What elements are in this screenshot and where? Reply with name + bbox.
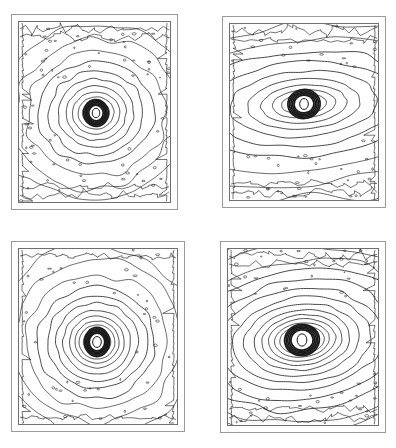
noise-speckle [80, 175, 82, 177]
noise-speckle [296, 28, 297, 30]
contour-panel-bottom-left [11, 241, 185, 432]
noise-speckle [145, 308, 147, 310]
noise-speckle [143, 314, 146, 315]
noise-speckle [315, 163, 317, 165]
noise-speckle [366, 260, 368, 262]
noise-speckle [98, 52, 99, 54]
contour-group [11, 243, 185, 432]
noise-speckle [86, 281, 89, 283]
noise-speckle [34, 342, 37, 343]
noise-speckle [340, 169, 342, 170]
noise-speckle [347, 180, 349, 181]
noise-speckle [314, 264, 316, 266]
noise-speckle [153, 316, 156, 318]
noise-speckle [297, 188, 301, 190]
noise-speckle [48, 40, 51, 42]
noise-speckle [277, 164, 279, 166]
core-center-hole [92, 108, 100, 118]
noise-speckle [365, 415, 369, 418]
edge-spike-contour [156, 23, 167, 201]
noise-speckle [297, 250, 301, 251]
noise-speckle [355, 195, 357, 197]
noise-speckle [121, 33, 124, 35]
noise-speckle [124, 269, 128, 271]
noise-speckle [308, 171, 309, 174]
noise-speckle [319, 159, 321, 160]
edge-spike-contour [233, 25, 243, 199]
noise-speckle [143, 408, 146, 409]
noise-speckle [246, 196, 249, 198]
noise-speckle [146, 300, 147, 302]
edge-spike-contour [163, 250, 174, 423]
noise-speckle [76, 381, 80, 383]
noise-speckle [76, 36, 79, 37]
noise-speckle [168, 356, 170, 357]
noise-speckle [63, 76, 67, 79]
noise-speckle [120, 378, 121, 380]
contour-group [220, 241, 386, 433]
contour-level [222, 16, 386, 205]
edge-noise-contour [229, 260, 377, 268]
noise-speckle [295, 182, 299, 184]
noise-speckle [60, 268, 62, 269]
noise-speckle [344, 272, 345, 273]
noise-speckle [358, 409, 362, 410]
noise-speckle [26, 147, 27, 149]
noise-speckle [54, 135, 56, 136]
noise-speckle [131, 75, 134, 76]
noise-speckle [57, 77, 59, 78]
contour-group [11, 23, 178, 202]
noise-speckle [148, 68, 150, 70]
noise-speckle [316, 400, 319, 402]
noise-speckle [31, 145, 35, 146]
edge-noise-contour [231, 180, 377, 188]
noise-speckle [132, 33, 136, 35]
noise-speckle [89, 65, 91, 67]
noise-speckle [285, 287, 288, 288]
noise-speckle [121, 178, 125, 180]
noise-speckle [159, 178, 162, 179]
noise-speckle [82, 180, 85, 182]
noise-speckle [254, 156, 257, 157]
noise-speckle [66, 159, 69, 161]
noise-speckle [52, 164, 55, 165]
noise-speckle [73, 282, 75, 284]
noise-speckle [40, 69, 43, 71]
figure-root [0, 0, 396, 448]
noise-speckle [97, 388, 100, 389]
noise-speckle [236, 421, 237, 423]
noise-speckle [121, 164, 124, 166]
noise-speckle [31, 105, 34, 106]
noise-speckle [340, 392, 344, 393]
noise-speckle [368, 178, 372, 180]
noise-speckle [346, 62, 348, 64]
noise-speckle [309, 395, 311, 396]
noise-speckle [311, 275, 312, 277]
noise-speckle [349, 196, 352, 197]
noise-speckle [137, 294, 138, 295]
noise-speckle [243, 250, 247, 252]
noise-speckle [238, 388, 241, 390]
edge-noise-contour [20, 188, 169, 199]
noise-speckle [124, 46, 126, 48]
noise-speckle [49, 139, 51, 141]
panel-outer-frame [223, 17, 386, 208]
noise-speckle [156, 131, 159, 133]
noise-speckle [27, 275, 29, 277]
noise-speckle [350, 43, 353, 44]
noise-speckle [53, 271, 55, 273]
noise-speckle [142, 180, 146, 181]
core-center-hole [93, 337, 102, 348]
noise-speckle [362, 140, 366, 142]
noise-speckle [297, 156, 299, 157]
noise-speckle [347, 278, 350, 279]
noise-speckle [267, 157, 270, 159]
noise-speckle [280, 250, 282, 252]
noise-speckle [126, 172, 130, 174]
noise-speckle [74, 47, 75, 49]
noise-speckle [124, 410, 125, 412]
noise-speckle [320, 54, 324, 56]
noise-speckle [113, 292, 116, 294]
noise-speckle [156, 320, 160, 322]
contour-panel-top-right [222, 16, 386, 208]
